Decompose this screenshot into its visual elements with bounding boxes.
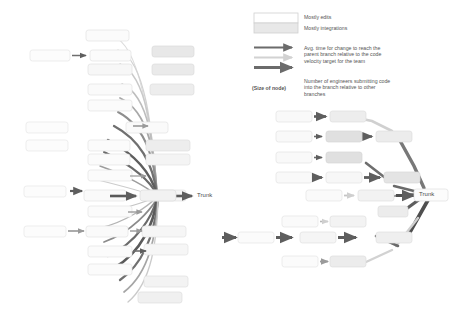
legend-label-mostly-edits: Mostly edits bbox=[304, 14, 331, 20]
legend-key-node-size: (Size of node) bbox=[252, 85, 286, 91]
legend-swatch-mostly-integrations bbox=[254, 23, 298, 33]
legend-label-node-size-meaning: Number of engineers submitting code into… bbox=[304, 78, 436, 97]
legend-label-arrow-meaning: Avg. time for change to reach the parent… bbox=[304, 45, 429, 64]
legend-swatch-mostly-edits bbox=[254, 13, 298, 23]
legend-label-mostly-integrations: Mostly integrations bbox=[304, 25, 347, 31]
diagram-canvas: Trunk bbox=[0, 0, 456, 311]
